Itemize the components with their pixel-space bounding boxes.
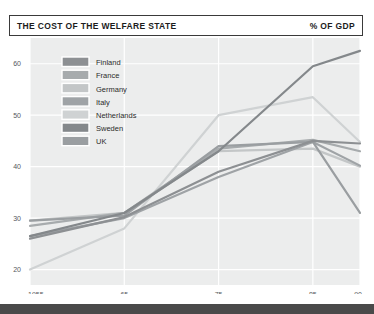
- legend-swatch: [62, 57, 89, 67]
- unit-label: % OF GDP: [310, 21, 355, 31]
- y-tick-label: 60: [13, 60, 21, 67]
- y-axis-labels: 2030405060: [13, 60, 21, 273]
- y-tick-label: 20: [13, 266, 21, 273]
- footer-bar: [0, 304, 374, 314]
- line-chart: 2030405060 195565758590 FinlandFranceGer…: [0, 36, 374, 294]
- legend-label: UK: [96, 137, 106, 146]
- chart-header: THE COST OF THE WELFARE STATE % OF GDP: [9, 15, 363, 36]
- legend-swatch: [62, 97, 89, 107]
- legend-label: Italy: [96, 98, 110, 107]
- x-tick-label: 65: [120, 291, 128, 294]
- legend-swatch: [62, 110, 89, 120]
- legend-swatch: [62, 83, 89, 93]
- legend-swatch: [62, 70, 89, 80]
- legend-swatch: [62, 123, 89, 133]
- legend-item-italy: Italy: [62, 97, 110, 107]
- x-tick-label: 1955: [28, 291, 44, 294]
- x-tick-label: 75: [215, 291, 223, 294]
- legend-label: Finland: [96, 58, 121, 67]
- legend-item-uk: UK: [62, 136, 106, 146]
- page-title: THE COST OF THE WELFARE STATE: [17, 21, 177, 31]
- y-tick-label: 50: [13, 112, 21, 119]
- chart-figure: THE COST OF THE WELFARE STATE % OF GDP 2…: [0, 0, 374, 314]
- legend-label: Netherlands: [96, 111, 137, 120]
- legend-label: Sweden: [96, 124, 123, 133]
- legend-swatch: [62, 136, 89, 146]
- legend-label: France: [96, 71, 119, 80]
- y-tick-label: 30: [13, 215, 21, 222]
- x-tick-label: 85: [309, 291, 317, 294]
- legend-item-netherlands: Netherlands: [62, 110, 137, 120]
- legend-label: Germany: [96, 85, 127, 94]
- x-tick-label: 90: [354, 291, 362, 294]
- plot-area: 2030405060 195565758590 FinlandFranceGer…: [0, 36, 374, 294]
- x-axis-labels: 195565758590: [28, 291, 362, 294]
- y-tick-label: 40: [13, 163, 21, 170]
